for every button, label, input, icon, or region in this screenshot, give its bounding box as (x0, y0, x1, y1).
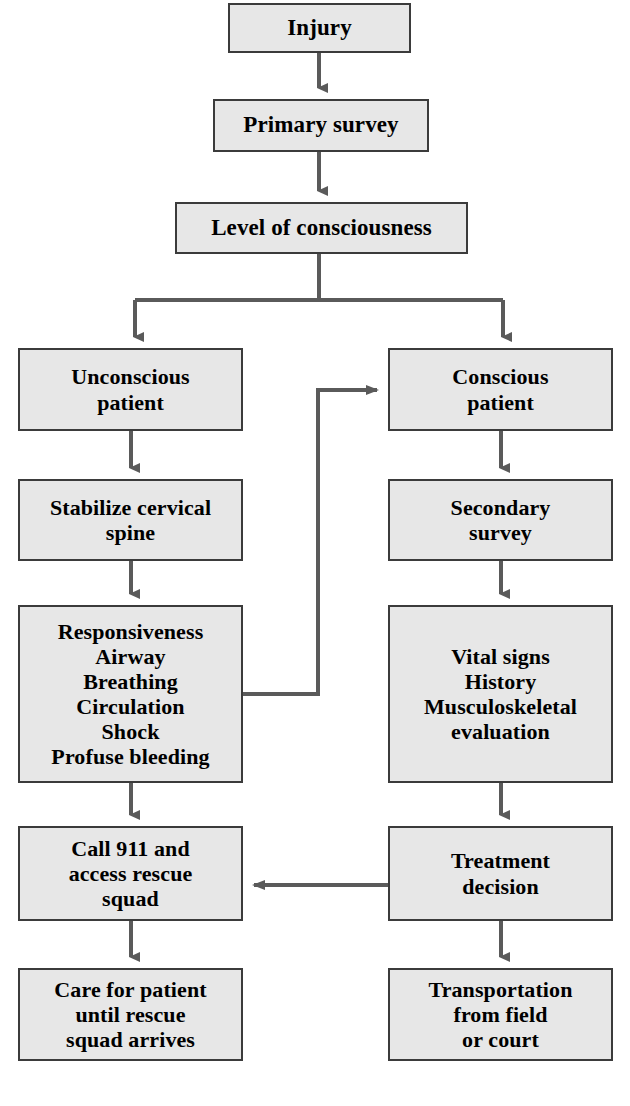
node-transportation[interactable]: Transportation from field or court (388, 968, 613, 1061)
node-conscious-patient[interactable]: Conscious patient (388, 348, 613, 431)
node-vital-signs-history[interactable]: Vital signs History Musculoskeletal eval… (388, 605, 613, 783)
node-stabilize-cervical-spine[interactable]: Stabilize cervical spine (18, 479, 243, 561)
edge-abc-conscious-feedback (243, 390, 377, 694)
node-care-for-patient[interactable]: Care for patient until rescue squad arri… (18, 968, 243, 1061)
node-responsiveness-airway-breathing[interactable]: Responsiveness Airway Breathing Circulat… (18, 605, 243, 783)
flowchart-canvas: Injury Primary survey Level of conscious… (0, 0, 630, 1106)
node-level-of-consciousness[interactable]: Level of consciousness (175, 202, 468, 254)
node-treatment-decision[interactable]: Treatment decision (388, 826, 613, 921)
node-injury[interactable]: Injury (228, 3, 411, 53)
node-primary-survey[interactable]: Primary survey (213, 99, 429, 152)
node-unconscious-patient[interactable]: Unconscious patient (18, 348, 243, 431)
node-secondary-survey[interactable]: Secondary survey (388, 479, 613, 561)
node-call-911[interactable]: Call 911 and access rescue squad (18, 826, 243, 921)
